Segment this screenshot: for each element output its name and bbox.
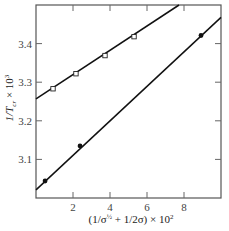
data-point-open-square <box>51 87 55 91</box>
x-tick-label: 4 <box>107 201 113 213</box>
fit-lines <box>36 5 221 190</box>
y-tick-label: 3.1 <box>18 153 32 165</box>
data-point-filled <box>199 33 204 38</box>
y-tick-label: 3.3 <box>18 76 32 88</box>
ticks <box>36 5 221 198</box>
plot-frame <box>36 5 221 198</box>
data-point-open-square <box>103 53 107 57</box>
data-point-open-square <box>132 34 136 38</box>
fit-line-series-2 <box>36 17 221 190</box>
y-axis-label: 1/Tcr × 103 <box>3 74 18 121</box>
data-point-open-square <box>74 72 78 76</box>
x-tick-label: 8 <box>181 201 187 213</box>
data-point-filled <box>78 143 83 148</box>
x-tick-label: 2 <box>70 201 76 213</box>
chart: 24683.13.23.33.4 (1/σ½ + 1/2σ) × 102 1/T… <box>0 0 229 231</box>
x-tick-label: 6 <box>144 201 150 213</box>
x-axis-label: (1/σ½ + 1/2σ) × 102 <box>89 213 174 226</box>
y-tick-label: 3.4 <box>18 38 32 50</box>
fit-line-series-1 <box>36 5 179 99</box>
y-tick-label: 3.2 <box>18 115 32 127</box>
tick-labels: 24683.13.23.33.4 <box>18 38 187 213</box>
data-point-filled <box>43 179 48 184</box>
